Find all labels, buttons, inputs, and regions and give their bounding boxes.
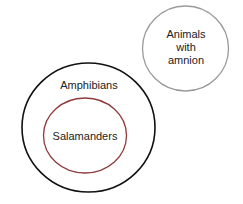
label-animals-with-amnion-line1: Animals bbox=[166, 28, 206, 40]
label-amphibians: Amphibians bbox=[60, 79, 118, 91]
euler-diagram: Animals with amnion Amphibians Salamande… bbox=[0, 0, 243, 204]
label-salamanders: Salamanders bbox=[53, 130, 118, 142]
label-animals-with-amnion-line3: amnion bbox=[168, 54, 204, 66]
label-animals-with-amnion-line2: with bbox=[175, 41, 196, 53]
